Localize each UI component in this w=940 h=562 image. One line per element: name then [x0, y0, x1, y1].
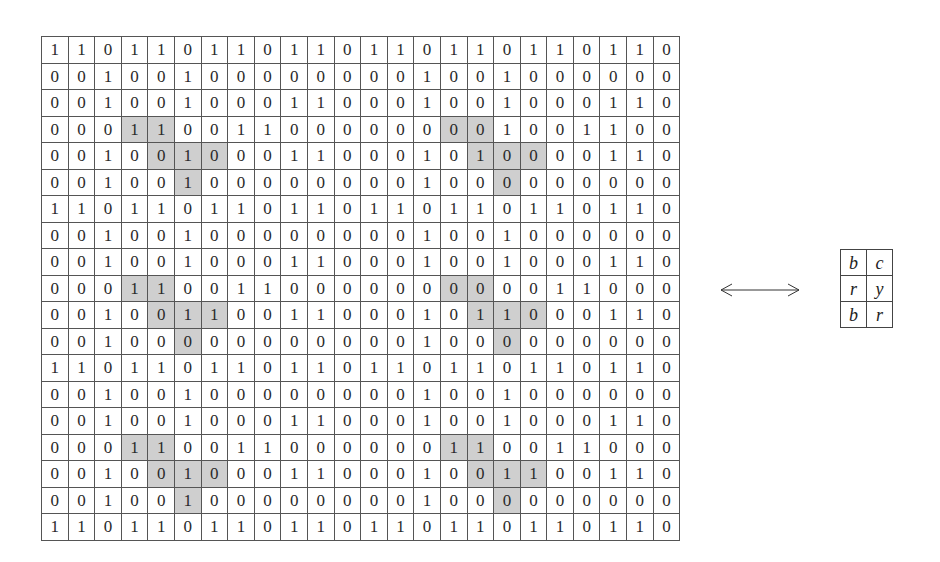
- grid-cell: 1: [494, 116, 521, 143]
- grid-cell: 0: [281, 434, 308, 461]
- grid-cell: 0: [95, 196, 122, 223]
- grid-cell: 1: [547, 434, 574, 461]
- grid-cell: 0: [573, 169, 600, 196]
- grid-cell: 0: [148, 461, 175, 488]
- grid-cell: 1: [361, 37, 388, 64]
- grid-cell: 1: [547, 355, 574, 382]
- grid-cell: 0: [520, 169, 547, 196]
- grid-cell: 0: [174, 328, 201, 355]
- grid-cell: 1: [494, 63, 521, 90]
- grid-cell: 0: [414, 116, 441, 143]
- grid-cell: 0: [653, 63, 680, 90]
- grid-cell: 0: [334, 408, 361, 435]
- grid-cell: 0: [254, 169, 281, 196]
- grid-cell: 1: [95, 63, 122, 90]
- grid-cell: 0: [653, 302, 680, 329]
- grid-cell: 0: [334, 328, 361, 355]
- grid-cell: 0: [361, 116, 388, 143]
- grid-cell: 0: [254, 381, 281, 408]
- grid-cell: 1: [121, 37, 148, 64]
- grid-cell: 0: [653, 222, 680, 249]
- grid-cell: 0: [520, 90, 547, 117]
- grid-cell: 1: [414, 63, 441, 90]
- grid-cell: 0: [467, 90, 494, 117]
- grid-cell: 1: [95, 461, 122, 488]
- grid-cell: 0: [547, 249, 574, 276]
- grid-cell: 0: [201, 143, 228, 170]
- grid-cell: 0: [653, 487, 680, 514]
- grid-cell: 0: [42, 328, 69, 355]
- grid-cell: 0: [361, 275, 388, 302]
- grid-cell: 0: [520, 63, 547, 90]
- grid-cell: 0: [520, 116, 547, 143]
- grid-cell: 0: [494, 169, 521, 196]
- grid-cell: 0: [201, 408, 228, 435]
- grid-cell: 1: [414, 461, 441, 488]
- grid-cell: 1: [95, 381, 122, 408]
- grid-row: 001001000000001000000000: [42, 169, 680, 196]
- grid-cell: 0: [627, 275, 654, 302]
- grid-cell: 0: [653, 196, 680, 223]
- grid-cell: 0: [334, 222, 361, 249]
- grid-cell: 1: [121, 434, 148, 461]
- grid-cell: 0: [600, 169, 627, 196]
- grid-cell: 0: [281, 116, 308, 143]
- grid-cell: 0: [254, 487, 281, 514]
- grid-cell: 1: [121, 196, 148, 223]
- grid-cell: 1: [174, 461, 201, 488]
- grid-cell: 1: [307, 514, 334, 541]
- grid-cell: 0: [600, 63, 627, 90]
- grid-cell: 1: [600, 461, 627, 488]
- grid-cell: 0: [148, 63, 175, 90]
- grid-cell: 0: [148, 90, 175, 117]
- grid-cell: 1: [361, 355, 388, 382]
- grid-cell: 0: [653, 37, 680, 64]
- grid-cell: 0: [547, 169, 574, 196]
- grid-cell: 0: [627, 381, 654, 408]
- grid-cell: 1: [174, 222, 201, 249]
- grid-cell: 0: [68, 487, 95, 514]
- grid-cell: 1: [95, 222, 122, 249]
- grid-cell: 0: [387, 328, 414, 355]
- grid-cell: 0: [307, 487, 334, 514]
- grid-cell: 0: [653, 461, 680, 488]
- grid-cell: 0: [121, 461, 148, 488]
- grid-cell: 1: [307, 90, 334, 117]
- grid-cell: 0: [653, 408, 680, 435]
- grid-cell: 0: [414, 196, 441, 223]
- grid-cell: 0: [281, 381, 308, 408]
- grid-cell: 0: [42, 249, 69, 276]
- grid-cell: 0: [440, 328, 467, 355]
- grid-cell: 1: [440, 37, 467, 64]
- grid-cell: 0: [653, 514, 680, 541]
- grid-cell: 0: [467, 63, 494, 90]
- grid-row: 110110110110110110110110: [42, 355, 680, 382]
- grid-cell: 1: [228, 514, 255, 541]
- grid-cell: 1: [281, 90, 308, 117]
- grid-cell: 0: [573, 461, 600, 488]
- grid-cell: 1: [573, 434, 600, 461]
- grid-cell: 0: [201, 275, 228, 302]
- grid-cell: 0: [228, 143, 255, 170]
- grid-cell: 1: [387, 355, 414, 382]
- grid-cell: 0: [95, 514, 122, 541]
- grid-cell: 0: [520, 249, 547, 276]
- grid-cell: 0: [42, 381, 69, 408]
- grid-cell: 0: [307, 434, 334, 461]
- grid-cell: 0: [467, 461, 494, 488]
- grid-cell: 0: [201, 328, 228, 355]
- grid-cell: 1: [600, 249, 627, 276]
- grid-cell: 0: [440, 381, 467, 408]
- grid-cell: 0: [494, 328, 521, 355]
- grid-cell: 1: [174, 381, 201, 408]
- grid-cell: 0: [148, 169, 175, 196]
- grid-row: 001001000110001001100110: [42, 461, 680, 488]
- grid-cell: 0: [387, 487, 414, 514]
- grid-cell: 0: [228, 302, 255, 329]
- grid-cell: 1: [414, 169, 441, 196]
- grid-cell: 0: [95, 434, 122, 461]
- grid-cell: 0: [467, 408, 494, 435]
- grid-cell: 0: [201, 90, 228, 117]
- grid-cell: 0: [201, 249, 228, 276]
- grid-cell: 1: [174, 143, 201, 170]
